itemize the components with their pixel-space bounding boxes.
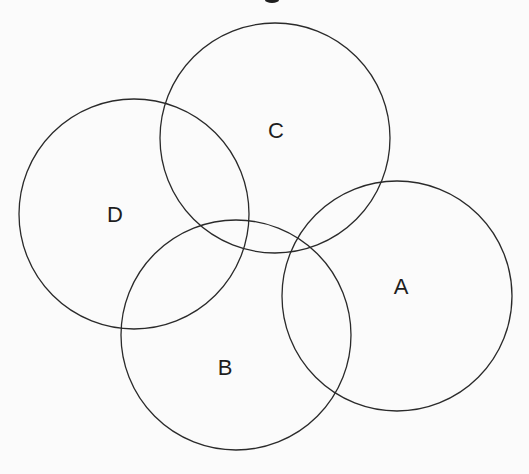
circles-layer: [19, 23, 512, 450]
diagram-canvas: ABCD: [0, 0, 529, 474]
circle-label-d: D: [107, 202, 123, 227]
cropped-glyph-fragment: [265, 0, 279, 3]
circle-b: [121, 220, 351, 450]
labels-layer: ABCD: [107, 118, 409, 380]
circle-label-c: C: [268, 118, 284, 143]
circles-diagram: ABCD: [0, 0, 529, 474]
circle-d: [19, 99, 249, 329]
circle-label-b: B: [218, 355, 233, 380]
circle-label-a: A: [394, 274, 409, 299]
